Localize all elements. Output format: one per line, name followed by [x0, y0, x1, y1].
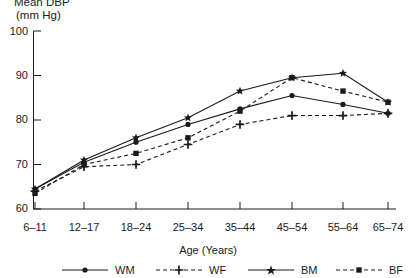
- data-point-bf-3: [185, 135, 190, 140]
- data-point-wf-6: [339, 111, 348, 120]
- legend-label-wm: WM: [115, 264, 135, 276]
- legend-label-wf: WF: [209, 264, 226, 276]
- data-point-wf-4: [236, 120, 245, 129]
- series-line-wf: [35, 113, 388, 191]
- plot-area: [0, 0, 416, 244]
- legend-swatch-wm: [62, 263, 108, 277]
- chart-legend: WM WF BM BF: [0, 262, 416, 278]
- data-point-bf-5: [289, 75, 294, 80]
- data-point-bf-7: [385, 100, 390, 105]
- axis-lines: [34, 31, 397, 209]
- legend-entry-wm[interactable]: WM: [62, 262, 135, 278]
- legend-swatch-bf: [336, 263, 382, 277]
- data-point-wf-5: [288, 111, 297, 120]
- data-point-bf-6: [340, 88, 345, 93]
- data-series-layer: [31, 69, 393, 196]
- series-bf: [32, 75, 390, 196]
- series-line-bf: [35, 78, 388, 194]
- legend-label-bm: BM: [301, 264, 318, 276]
- legend-swatch-wf: [156, 263, 202, 277]
- data-point-bf-2: [133, 151, 138, 156]
- series-line-wm: [35, 96, 388, 189]
- series-wf: [31, 109, 393, 195]
- series-line-bm: [35, 73, 388, 189]
- data-point-wf-3: [184, 140, 193, 149]
- data-point-wf-7: [384, 109, 393, 118]
- data-point-wm-6: [340, 102, 345, 107]
- data-point-bm-3: [184, 113, 192, 121]
- series-wm: [32, 93, 390, 192]
- data-point-bf-1: [81, 162, 86, 167]
- data-point-bf-0: [32, 191, 37, 196]
- x-axis-title: Age (Years): [0, 244, 416, 256]
- data-point-wf-2: [132, 160, 141, 169]
- legend-entry-bm[interactable]: BM: [248, 262, 318, 278]
- legend-label-bf: BF: [389, 264, 403, 276]
- legend-entry-wf[interactable]: WF: [156, 262, 226, 278]
- x-axis-ticks: [35, 202, 388, 209]
- data-point-wm-5: [289, 93, 294, 98]
- data-point-bm-4: [236, 87, 244, 95]
- chart-figure: Mean DBP (mm Hg) 100 90 80 70 60 6–11 12…: [0, 0, 416, 278]
- series-bm: [31, 69, 392, 192]
- data-point-wm-3: [185, 122, 190, 127]
- y-axis-ticks: [34, 31, 42, 209]
- legend-entry-bf[interactable]: BF: [336, 262, 403, 278]
- data-point-bf-4: [237, 108, 242, 113]
- legend-swatch-bm: [248, 263, 294, 277]
